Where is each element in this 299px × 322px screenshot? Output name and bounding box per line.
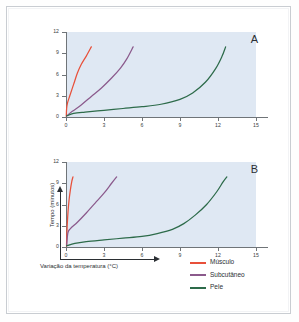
x-tick-label-a-2: 6: [141, 123, 144, 128]
x-axis-arrow-head-icon: [154, 256, 160, 262]
x-axis-title: Variação da temperatura (°C): [40, 263, 118, 269]
x-tick-a-3: [180, 117, 181, 121]
x-tick-a-0: [66, 117, 67, 121]
x-tick-a-2: [142, 117, 143, 121]
chart-panel-a: 036912 03691215 A: [38, 27, 270, 137]
x-axis-line-a: [66, 117, 268, 118]
legend-label-0: Músculo: [210, 259, 234, 266]
axis-orientation-indicator: Tempo (minutos) Variação da temperatura …: [38, 190, 158, 268]
series-line-a-1: [67, 47, 134, 116]
y-tick-label-a-4: 12: [38, 29, 59, 34]
y-tick-label-a-0: 0: [38, 114, 59, 119]
legend-item-0: Músculo: [190, 258, 290, 267]
chart-legend: MúsculoSubcutâneoPele: [190, 258, 290, 296]
panel-label-a: A: [251, 33, 258, 45]
legend-swatch-icon-2: [190, 287, 206, 289]
y-tick-label-b-4: 12: [38, 159, 59, 164]
panel-label-b: B: [251, 163, 258, 175]
y-axis-title: Tempo (minutos): [49, 175, 55, 235]
x-tick-label-a-1: 3: [103, 123, 106, 128]
x-tick-b-3: [180, 247, 181, 251]
x-tick-label-a-4: 12: [215, 123, 221, 128]
legend-label-2: Pele: [210, 284, 223, 291]
legend-item-2: Pele: [190, 283, 290, 292]
y-tick-label-a-1: 3: [38, 93, 59, 98]
x-axis-arrow-line: [60, 259, 156, 260]
x-tick-label-a-5: 15: [253, 123, 259, 128]
data-curves-a: [66, 32, 256, 117]
x-tick-b-5: [256, 247, 257, 251]
x-tick-a-5: [256, 117, 257, 121]
x-tick-a-1: [104, 117, 105, 121]
legend-label-1: Subcutâneo: [210, 272, 245, 279]
series-line-a-0: [66, 47, 91, 116]
x-tick-label-a-3: 9: [179, 123, 182, 128]
x-tick-label-b-3: 9: [179, 253, 182, 258]
x-tick-a-4: [218, 117, 219, 121]
legend-item-1: Subcutâneo: [190, 271, 290, 280]
x-tick-b-4: [218, 247, 219, 251]
y-tick-label-a-2: 6: [38, 72, 59, 77]
y-axis-arrow-head-icon: [57, 186, 63, 192]
figure-container: 036912 03691215 A 036912 03691215 B Temp…: [0, 0, 299, 322]
legend-swatch-icon-1: [190, 274, 206, 276]
y-tick-label-a-3: 9: [38, 51, 59, 56]
series-line-a-2: [67, 47, 226, 116]
legend-swatch-icon-0: [190, 262, 206, 264]
y-axis-arrow-line: [60, 190, 61, 260]
x-tick-label-a-0: 0: [65, 123, 68, 128]
